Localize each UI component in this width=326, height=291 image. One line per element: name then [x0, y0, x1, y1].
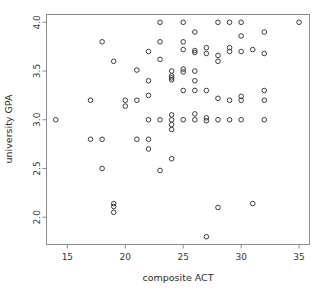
x-tick-label: 20	[120, 252, 132, 262]
data-point	[146, 147, 151, 152]
data-point	[100, 166, 105, 171]
data-point	[297, 20, 302, 25]
data-point	[100, 39, 105, 44]
data-point	[204, 118, 209, 123]
y-tick-label: 4.0	[33, 15, 43, 30]
data-point	[111, 210, 116, 215]
x-tick-label: 25	[177, 252, 188, 262]
data-point	[227, 117, 232, 122]
data-point	[216, 205, 221, 210]
data-point	[158, 20, 163, 25]
data-point	[262, 88, 267, 93]
scatter-plot-figure: 1520253035 2.02.53.03.54.0 composite ACT…	[0, 0, 326, 291]
data-point	[204, 234, 209, 239]
data-point	[111, 59, 116, 64]
data-point	[169, 69, 174, 74]
y-axis-label: university GPA	[3, 94, 14, 163]
data-point	[216, 117, 221, 122]
data-point	[123, 98, 128, 103]
data-point	[204, 51, 209, 56]
data-point	[181, 39, 186, 44]
y-tick-label: 2.5	[33, 161, 43, 175]
data-point	[181, 117, 186, 122]
data-point	[239, 49, 244, 54]
data-point	[262, 30, 267, 35]
data-point	[216, 53, 221, 58]
data-point	[193, 69, 198, 74]
y-tick-label: 3.0	[33, 112, 43, 127]
data-point	[239, 34, 244, 39]
data-point	[169, 122, 174, 127]
data-point	[100, 137, 105, 142]
data-point	[123, 104, 128, 109]
data-point	[169, 117, 174, 122]
data-point	[193, 30, 198, 35]
data-point	[135, 68, 140, 73]
data-point	[135, 98, 140, 103]
data-point	[158, 57, 163, 62]
data-point	[146, 137, 151, 142]
data-point	[146, 117, 151, 122]
data-point	[250, 47, 255, 52]
data-point	[193, 88, 198, 93]
data-point	[169, 127, 174, 132]
data-point	[146, 49, 151, 54]
x-axis-ticks: 1520253035	[62, 245, 305, 262]
data-point	[193, 117, 198, 122]
data-point	[227, 20, 232, 25]
data-point	[262, 117, 267, 122]
data-point	[53, 117, 58, 122]
data-point	[169, 156, 174, 161]
data-point	[262, 51, 267, 56]
x-axis-label: composite ACT	[142, 272, 213, 283]
data-point	[204, 88, 209, 93]
data-point	[158, 39, 163, 44]
data-point	[193, 112, 198, 117]
data-point	[239, 117, 244, 122]
data-point	[135, 137, 140, 142]
data-point	[146, 78, 151, 83]
data-point	[204, 45, 209, 50]
data-point	[181, 20, 186, 25]
data-point	[227, 98, 232, 103]
data-point	[262, 98, 267, 103]
data-point-group	[53, 20, 301, 239]
data-point	[169, 113, 174, 118]
data-point	[216, 96, 221, 101]
x-tick-label: 30	[235, 252, 247, 262]
plot-canvas: 1520253035 2.02.53.03.54.0 composite ACT…	[0, 0, 326, 291]
data-point	[216, 20, 221, 25]
data-point	[181, 70, 186, 75]
y-tick-label: 2.0	[33, 210, 43, 225]
y-axis-ticks: 2.02.53.03.54.0	[33, 15, 47, 225]
data-point	[250, 201, 255, 206]
data-point	[216, 59, 221, 64]
plot-frame	[47, 15, 310, 245]
data-point	[111, 204, 116, 209]
data-point	[239, 20, 244, 25]
y-tick-label: 3.5	[33, 64, 43, 78]
data-point	[88, 98, 93, 103]
data-point	[181, 88, 186, 93]
data-point	[88, 137, 93, 142]
data-point	[193, 78, 198, 83]
x-tick-label: 35	[293, 252, 304, 262]
data-point	[158, 168, 163, 173]
x-tick-label: 15	[62, 252, 73, 262]
data-point	[181, 47, 186, 52]
data-point	[158, 117, 163, 122]
data-point	[146, 93, 151, 98]
